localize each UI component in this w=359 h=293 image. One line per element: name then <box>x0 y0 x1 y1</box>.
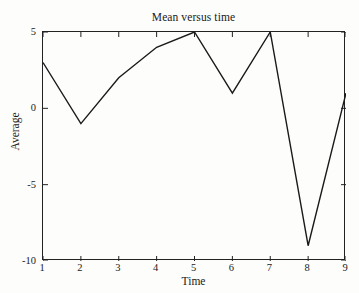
x-tick-label: 2 <box>77 262 82 274</box>
x-tick-label: 8 <box>305 262 310 274</box>
x-tick-label: 1 <box>39 262 44 274</box>
x-axis-ticks <box>43 32 346 261</box>
y-axis-tick-labels: 50-5-10 <box>0 31 36 260</box>
data-series-line <box>43 32 346 246</box>
y-tick-label: -10 <box>22 255 36 266</box>
x-tick-label: 5 <box>191 262 196 274</box>
x-tick-label: 4 <box>153 262 158 274</box>
x-tick-label: 6 <box>229 262 234 274</box>
y-axis-ticks <box>43 32 346 261</box>
plot-svg <box>43 32 346 261</box>
x-tick-label: 9 <box>342 262 347 274</box>
y-tick-label: 5 <box>31 26 36 37</box>
x-axis-tick-labels: 123456789 <box>42 262 345 276</box>
x-tick-label: 7 <box>267 262 272 274</box>
plot-area <box>42 31 345 260</box>
x-tick-label: 3 <box>115 262 120 274</box>
y-tick-label: 0 <box>31 102 36 113</box>
chart-figure: Mean versus time Average 50-5-10 1234567… <box>0 0 359 293</box>
x-axis-label: Time <box>42 275 345 288</box>
chart-title: Mean versus time <box>42 10 345 24</box>
y-tick-label: -5 <box>27 178 36 189</box>
